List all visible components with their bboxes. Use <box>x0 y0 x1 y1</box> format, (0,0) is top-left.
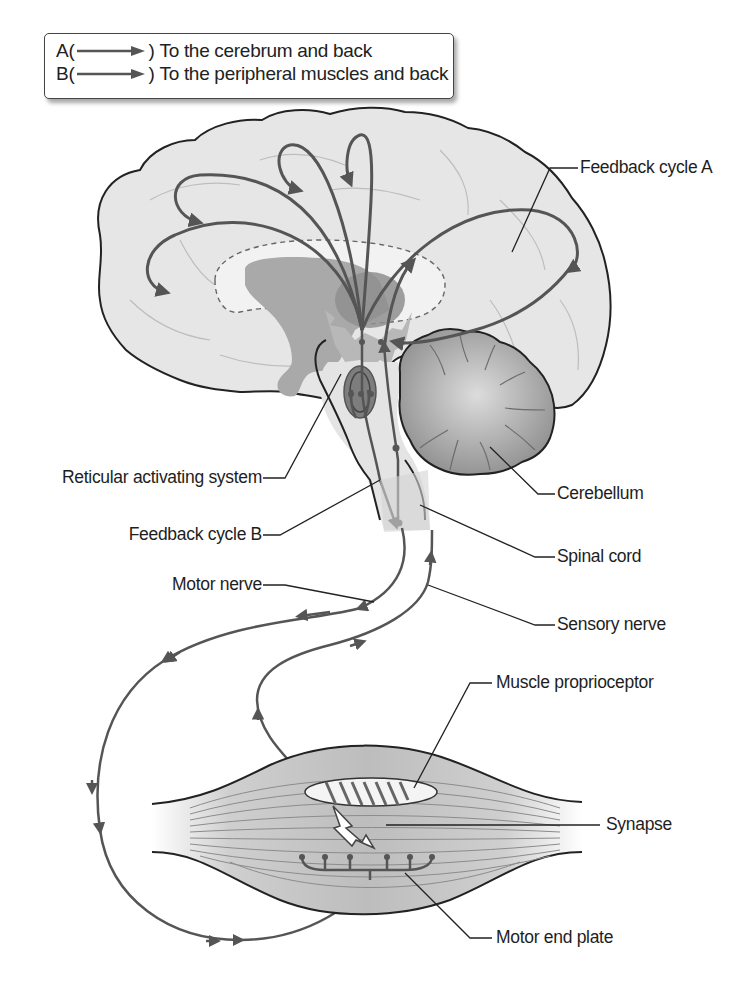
muscle <box>152 746 582 915</box>
legend-text-b: To the peripheral muscles and back <box>159 63 448 85</box>
legend-close-paren: ) <box>148 40 154 62</box>
label-synapse: Synapse <box>606 814 672 835</box>
label-feedback-cycle-b: Feedback cycle B <box>129 524 262 545</box>
legend: A ( ) To the cerebrum and back B ( ) To … <box>44 33 454 99</box>
legend-close-paren: ) <box>148 63 154 85</box>
legend-open-paren: ( <box>68 63 74 85</box>
legend-row-b: B ( ) To the peripheral muscles and back <box>56 62 453 85</box>
label-cerebellum: Cerebellum <box>557 483 643 504</box>
legend-key-b: B <box>56 63 68 85</box>
legend-row-a: A ( ) To the cerebrum and back <box>56 39 453 62</box>
legend-open-paren: ( <box>68 40 74 62</box>
label-motor-end-plate: Motor end plate <box>496 927 613 948</box>
label-muscle-proprioceptor: Muscle proprioceptor <box>496 672 653 693</box>
right-arrow-icon <box>75 68 147 80</box>
spinal-cord <box>380 470 430 532</box>
label-sensory-nerve: Sensory nerve <box>557 614 666 635</box>
label-feedback-cycle-a: Feedback cycle A <box>580 157 712 178</box>
legend-key-a: A <box>56 40 68 62</box>
label-reticular-activating-system: Reticular activating system <box>62 467 262 488</box>
label-motor-nerve: Motor nerve <box>172 574 262 595</box>
legend-text-a: To the cerebrum and back <box>159 40 371 62</box>
right-arrow-icon <box>75 45 147 57</box>
label-spinal-cord: Spinal cord <box>557 546 641 567</box>
